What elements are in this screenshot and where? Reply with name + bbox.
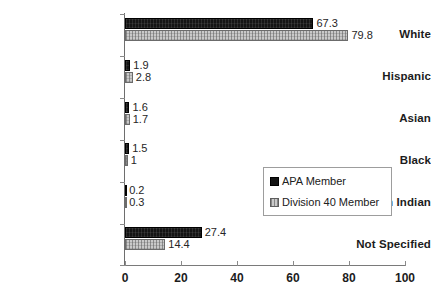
bar-div40-white	[125, 30, 348, 41]
bar-apa-black	[125, 143, 129, 154]
bar-div40-asian	[125, 114, 130, 125]
y-axis-tick	[120, 182, 125, 183]
gray-patterned-square-swatch-icon	[270, 198, 279, 207]
bar-value-div40-hispanic: 2.8	[136, 71, 151, 83]
x-axis-tick-label: 20	[174, 271, 187, 285]
x-axis-tick	[237, 261, 238, 266]
x-axis-tick-label: 40	[230, 271, 243, 285]
legend-item-apa-member: APA Member	[270, 175, 346, 187]
y-axis-tick	[120, 98, 125, 99]
bar-apa-hispanic	[125, 60, 130, 71]
bar-div40-hispanic	[125, 72, 133, 83]
y-axis-tick	[120, 140, 125, 141]
bar-value-apa-not-specified: 27.4	[205, 226, 226, 238]
x-axis-tick-label: 100	[395, 271, 415, 285]
x-axis-tick-label: 0	[122, 271, 129, 285]
x-axis-tick	[405, 261, 406, 266]
chart-legend: APA Member Division 40 Member	[263, 167, 392, 216]
bar-apa-american-indian	[125, 185, 127, 196]
bar-div40-american-indian	[125, 197, 127, 208]
bar-value-apa-white: 67.3	[316, 17, 337, 29]
bar-value-div40-black: 1	[131, 154, 137, 166]
bar-apa-white	[125, 18, 313, 29]
legend-label-apa-member: APA Member	[282, 175, 346, 187]
bar-value-div40-asian: 1.7	[133, 113, 148, 125]
y-axis-tick	[120, 56, 125, 57]
x-axis-tick	[181, 261, 182, 266]
bar-value-div40-not-specified: 14.4	[168, 238, 189, 250]
bar-value-apa-asian: 1.6	[132, 101, 147, 113]
x-axis-tick-label: 80	[342, 271, 355, 285]
x-axis-tick	[293, 261, 294, 266]
x-axis-line	[124, 265, 406, 266]
legend-label-division-40-member: Division 40 Member	[282, 196, 379, 208]
bar-value-div40-white: 79.8	[351, 29, 372, 41]
category-label-not-specified: Not Specified	[319, 238, 431, 250]
bar-div40-black	[125, 155, 128, 166]
bar-apa-asian	[125, 102, 129, 113]
bar-value-apa-hispanic: 1.9	[133, 59, 148, 71]
bar-div40-not-specified	[125, 239, 165, 250]
y-axis-tick	[120, 224, 125, 225]
bar-chart: White Hispanic Asian Black American Indi…	[0, 0, 431, 301]
bar-apa-not-specified	[125, 227, 202, 238]
legend-item-division-40-member: Division 40 Member	[270, 196, 379, 208]
black-square-swatch-icon	[270, 177, 279, 186]
x-axis-tick-label: 60	[286, 271, 299, 285]
bar-value-apa-american-indian: 0.2	[129, 184, 144, 196]
bar-value-apa-black: 1.5	[132, 142, 147, 154]
bar-value-div40-american-indian: 0.3	[129, 196, 144, 208]
x-axis-tick	[125, 261, 126, 266]
category-label-asian: Asian	[319, 112, 431, 124]
y-axis-tick	[120, 14, 125, 15]
category-label-black: Black	[319, 154, 431, 166]
x-axis-tick	[349, 261, 350, 266]
category-label-hispanic: Hispanic	[319, 70, 431, 82]
